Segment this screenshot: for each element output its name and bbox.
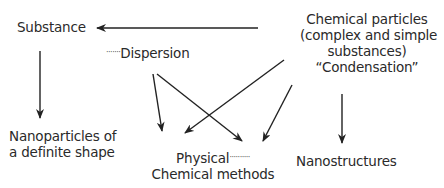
node-dispersion: ·······Dispersion (106, 45, 190, 61)
methods-line2: Chemical methods (143, 166, 283, 182)
arrow-dispersion-to-chemical (157, 74, 242, 141)
node-nanostructures: Nanostructures (296, 153, 397, 169)
arrow-chemical-particles-to-physical (185, 60, 284, 133)
node-chemical-particles: Chemical particles (complex and simple s… (300, 11, 434, 75)
physical-leader: ·········· (229, 153, 249, 162)
arrow-dispersion-to-physical (153, 74, 162, 131)
nanoparticles-line2: a definite shape (9, 144, 116, 160)
nanoparticles-line1: Nanoparticles of (9, 128, 116, 144)
arrow-chemical-particles-to-methods (263, 85, 292, 141)
dispersion-label: Dispersion (120, 45, 189, 61)
node-substance: Substance (17, 19, 86, 35)
chemical-particles-line2: (complex and simple (300, 27, 434, 43)
node-nanoparticles: Nanoparticles of a definite shape (9, 128, 116, 160)
node-methods: Physical·········· Chemical methods (143, 150, 283, 182)
methods-line1: Physical·········· (143, 150, 283, 166)
chemical-particles-line4: “Condensation” (300, 59, 434, 75)
nanostructures-label: Nanostructures (296, 153, 397, 169)
dispersion-leader: ······· (106, 48, 120, 57)
chemical-particles-line1: Chemical particles (300, 11, 434, 27)
substance-label: Substance (17, 19, 86, 35)
physical-label: Physical (176, 150, 229, 166)
chemical-particles-line3: substances) (300, 43, 434, 59)
